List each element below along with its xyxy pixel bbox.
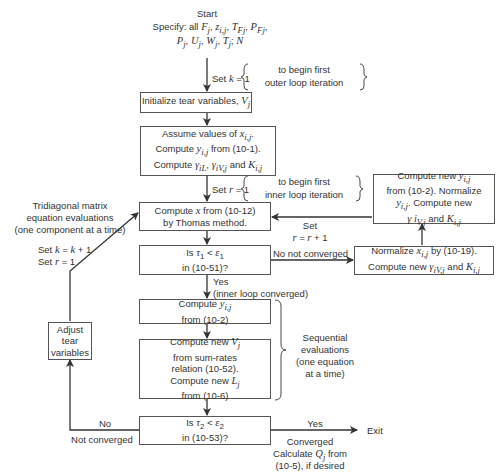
right-line2: from (10-2). Normalize xyxy=(386,185,481,197)
assume-values-box: Assume values of xi,j. Compute yi,j from… xyxy=(140,126,276,176)
tau1-line2: in (10-51)? xyxy=(182,262,228,274)
right-line4: γ iV,j and Ki,j xyxy=(407,213,461,229)
init-text: Initialize tear variables, Vj xyxy=(142,95,250,111)
adjust-line3: variables xyxy=(51,347,89,359)
compute-y-line1: Compute yi,j xyxy=(179,298,232,314)
yes-inner-line1: Yes xyxy=(213,276,229,288)
start-label: Start xyxy=(157,8,257,20)
assume-line1: Assume values of xi,j. xyxy=(162,128,254,144)
compute-v-box: Compute new Vj from sum-rates relation (… xyxy=(139,339,271,399)
right-line3: yi,j. Compute new xyxy=(396,197,472,213)
compute-new-y-box: Compute new yi,j from (10-2). Normalize … xyxy=(373,174,495,224)
set-r-label: Set r = 1 xyxy=(212,184,249,196)
compute-v-line3: relation (10-52). xyxy=(171,363,238,375)
assume-line2: Compute yi,j from (10-1). xyxy=(155,143,260,159)
tau1-line1: Is τ1 < ε1 xyxy=(186,247,224,262)
specify-line2: Pj, Uj, Wj, Tj; N xyxy=(160,35,260,51)
compute-y-line2: from (10-2) xyxy=(182,314,229,326)
sequential-line4: at a time) xyxy=(290,368,360,380)
sequential-line3: (one equation xyxy=(290,356,360,368)
sequential-line1: Sequential xyxy=(290,332,360,344)
compute-v-line1: Compute new Vj xyxy=(170,336,240,352)
converged-line1: Converged xyxy=(270,436,350,448)
set-k-note-line2: outer loop iteration xyxy=(250,77,358,89)
tau1-decision-box: Is τ1 < ε1 in (10-51)? xyxy=(139,245,271,275)
right-line1: Compute new yi,j xyxy=(398,170,471,186)
tau2-decision-box: Is τ2 < ε2 in (10-53)? xyxy=(139,416,271,445)
set-k-note-line1: to begin first xyxy=(250,64,358,76)
tridiagonal-note-line2: equation evaluations xyxy=(5,212,135,224)
set-k-inc-line1: Set k = k + 1 xyxy=(38,244,91,256)
assume-line3: Compute γiL, γiV,j and Ki,j xyxy=(154,159,263,175)
exit-label: Exit xyxy=(367,425,383,437)
init-tear-variables-box: Initialize tear variables, Vj xyxy=(140,92,252,113)
yes-label: Yes xyxy=(300,418,330,430)
adjust-line2: tear xyxy=(62,335,78,347)
compute-v-line2: from sum-rates xyxy=(173,352,237,364)
normalize-line2: Compute new γiV,j and Ki,j xyxy=(368,261,480,277)
adjust-tear-variables-box: Adjust tear variables xyxy=(48,322,92,360)
normalize-line1: Normalize xi,j by (10-19). xyxy=(371,245,477,261)
set-r-note-line1: to begin first xyxy=(250,176,358,188)
thomas-line2: by Thomas method. xyxy=(163,217,247,229)
compute-v-line5: from (10-6) xyxy=(182,390,229,402)
set-r-note-line2: inner loop iteration xyxy=(250,189,358,201)
tau2-line2: in (10-53)? xyxy=(182,432,228,444)
thomas-line1: Compute x from (10-12) xyxy=(155,205,256,217)
set-r-inc-line1: Set xyxy=(290,220,330,232)
set-r-inc-line2: r = r + 1 xyxy=(285,232,335,244)
set-k-inc-line2: Set r = 1 xyxy=(38,256,75,268)
converged-line3: (10-5), if desired xyxy=(265,460,355,472)
not-converged-label: Not converged xyxy=(62,434,142,446)
compute-y-box: Compute yi,j from (10-2) xyxy=(139,299,271,324)
compute-v-line4: Compute new Lj xyxy=(170,375,240,391)
adjust-line1: Adjust xyxy=(57,324,83,336)
sequential-line2: evaluations xyxy=(290,344,360,356)
no-not-converged-label: No not converged xyxy=(273,248,348,260)
tridiagonal-note-line1: Tridiagonal matrix xyxy=(5,200,135,212)
tau2-line1: Is τ2 < ε2 xyxy=(186,417,224,432)
thomas-method-box: Compute x from (10-12) by Thomas method. xyxy=(139,202,271,231)
set-k-label: Set k = 1 xyxy=(212,73,250,85)
normalize-box: Normalize xi,j by (10-19). Compute new γ… xyxy=(354,246,494,275)
tridiagonal-note-line3: (one component at a time) xyxy=(5,224,135,236)
no-label: No xyxy=(90,418,120,430)
